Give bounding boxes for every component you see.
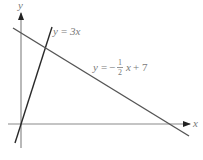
label-const: + 7 [133,61,148,73]
label-fraction-denominator: 2 [118,68,122,77]
label-rhs: 3x [69,25,81,37]
label-lhs: y [92,61,98,73]
label-eq: = [61,25,67,37]
graph-figure: y x y = 3x y = − 1 2 x + 7 [0,0,203,160]
label-eq: = [101,61,107,73]
x-axis-label: x [192,117,198,129]
line-y-equals-neg-half-x-plus-7 [13,28,189,136]
label-y-equals-3x: y = 3x [52,25,81,37]
label-y-equals-neg-half-x-plus-7: y = − 1 2 x + 7 [92,58,148,77]
label-lhs: y [52,25,58,37]
label-x: x [125,61,131,73]
label-minus: − [109,61,115,73]
y-axis-label: y [17,0,23,11]
label-fraction-numerator: 1 [118,58,122,67]
